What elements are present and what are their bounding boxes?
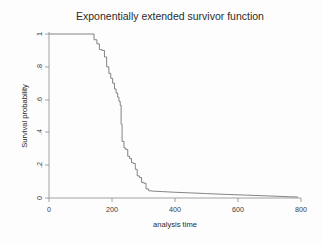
y-tick-label: .4	[35, 129, 44, 135]
y-axis-title: Survival probability	[20, 84, 29, 148]
survivor-function-chart: Exponentially extended survivor function…	[0, 0, 322, 245]
chart-title: Exponentially extended survivor function	[76, 10, 264, 22]
x-tick-label: 600	[232, 205, 244, 214]
y-tick-label: .6	[35, 97, 44, 103]
x-tick-label: 200	[106, 205, 118, 214]
x-tick-label: 0	[47, 205, 51, 214]
y-axis-ticks: 1 .8 .6 .4 .2 0	[35, 32, 49, 200]
x-tick-label: 800	[295, 205, 307, 214]
x-tick-label: 400	[169, 205, 181, 214]
survivor-curve	[49, 34, 298, 197]
y-tick-label: 1	[35, 32, 44, 36]
y-tick-label: .2	[35, 162, 44, 168]
y-tick-label: .8	[35, 64, 44, 70]
x-axis-ticks: 0 200 400 600 800	[47, 198, 307, 214]
x-axis-title: analysis time	[153, 220, 197, 229]
figure-container: Exponentially extended survivor function…	[0, 0, 322, 245]
y-tick-label: 0	[35, 196, 44, 200]
